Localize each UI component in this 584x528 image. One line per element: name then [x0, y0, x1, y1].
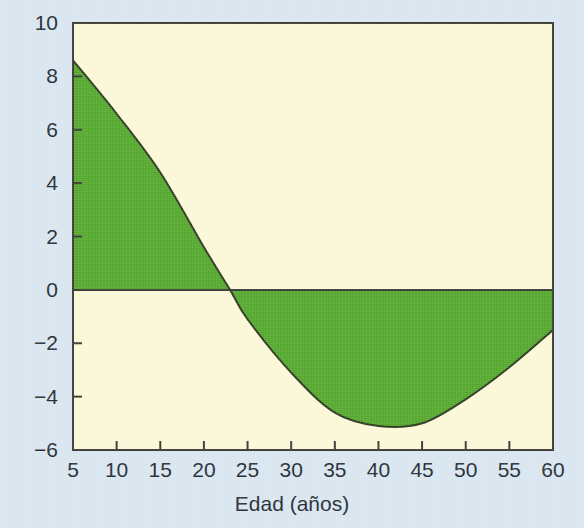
y-tick-label: 0	[0, 278, 58, 302]
x-tick-label: 50	[454, 458, 477, 482]
y-tick-label: −6	[0, 438, 58, 462]
y-tick-label: −4	[0, 385, 58, 409]
x-tick-label: 20	[192, 458, 215, 482]
x-tick-label: 40	[367, 458, 390, 482]
chart-figure: 1086420−2−4−6 51015202530354045505560 Ed…	[0, 0, 584, 528]
x-tick-label: 10	[105, 458, 128, 482]
y-tick-label: 8	[0, 64, 58, 88]
x-tick-label: 5	[67, 458, 79, 482]
x-tick-label: 60	[541, 458, 564, 482]
x-tick-label: 30	[279, 458, 302, 482]
y-tick-label: 4	[0, 171, 58, 195]
area-chart-plot	[0, 0, 584, 528]
x-tick-label: 55	[498, 458, 521, 482]
x-tick-label: 15	[149, 458, 172, 482]
x-tick-label: 35	[323, 458, 346, 482]
y-tick-label: 10	[0, 11, 58, 35]
x-axis-label: Edad (años)	[0, 492, 584, 516]
y-tick-label: −2	[0, 331, 58, 355]
x-tick-label: 45	[410, 458, 433, 482]
y-tick-label: 6	[0, 118, 58, 142]
y-tick-label: 2	[0, 225, 58, 249]
x-tick-label: 25	[236, 458, 259, 482]
